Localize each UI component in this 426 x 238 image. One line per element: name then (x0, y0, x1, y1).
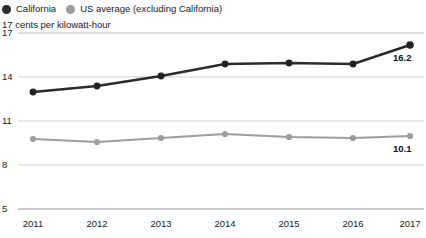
x-tick-label-2015: 2015 (278, 219, 299, 229)
data-point-us-2013 (158, 135, 164, 141)
plot-area: 17 14 11 8 5 2011 2012 2013 2014 2015 20… (0, 0, 426, 238)
y-tick-label-8: 8 (2, 160, 7, 170)
x-tick-label-2014: 2014 (214, 219, 235, 229)
data-point-us-2017 (407, 133, 413, 139)
data-point-ca-2012 (94, 83, 101, 90)
electricity-price-line-chart: California US average (excluding Califor… (0, 0, 426, 238)
data-point-us-2011 (30, 136, 36, 142)
data-point-us-2012 (94, 139, 100, 145)
data-point-ca-2017 (406, 41, 414, 49)
x-tick-label-2013: 2013 (150, 219, 171, 229)
data-point-ca-2011 (30, 89, 37, 96)
end-value-label-california: 16.2 (393, 53, 412, 63)
end-value-label-us-average: 10.1 (393, 144, 412, 154)
series-line-california (33, 45, 410, 92)
x-tick-label-2012: 2012 (86, 219, 107, 229)
data-point-ca-2016 (350, 61, 357, 68)
y-tick-label-17: 17 (2, 28, 13, 38)
x-tick-label-2016: 2016 (342, 219, 363, 229)
y-tick-label-5: 5 (2, 204, 7, 214)
y-tick-label-11: 11 (2, 116, 12, 126)
x-tick-label-2017: 2017 (399, 219, 420, 229)
data-point-ca-2013 (158, 73, 165, 80)
data-point-us-2015 (286, 134, 292, 140)
data-point-us-2014 (222, 131, 228, 137)
y-tick-label-14: 14 (2, 72, 13, 82)
series-us-average (30, 131, 413, 145)
x-tick-label-2011: 2011 (23, 219, 43, 229)
chart-svg (0, 0, 426, 238)
series-california (30, 41, 414, 95)
data-point-ca-2014 (222, 61, 229, 68)
data-point-ca-2015 (286, 60, 293, 67)
data-point-us-2016 (350, 135, 356, 141)
